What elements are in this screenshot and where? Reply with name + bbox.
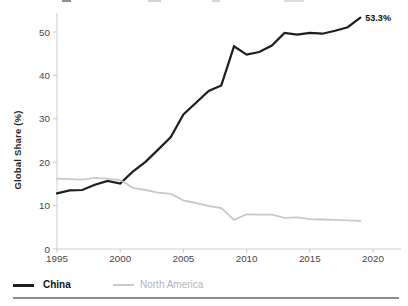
- legend-swatch-north-america: [113, 284, 134, 286]
- chart-panel: Global Share (%) 01020304050199520002005…: [0, 0, 408, 306]
- legend-label-north-america: North America: [140, 279, 203, 291]
- legend-swatch-china: [13, 284, 34, 287]
- legend: China North America: [0, 0, 408, 306]
- bottom-divider: [13, 297, 399, 299]
- legend-label-china: China: [43, 279, 71, 291]
